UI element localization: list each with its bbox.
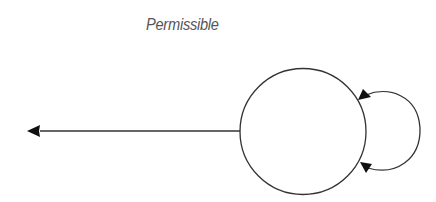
state-diagram	[0, 0, 436, 202]
self-loop-edge	[366, 92, 420, 170]
state-node	[240, 69, 366, 195]
self-loop-arrowhead-bottom	[360, 162, 372, 173]
outgoing-edge-arrowhead	[27, 125, 40, 137]
